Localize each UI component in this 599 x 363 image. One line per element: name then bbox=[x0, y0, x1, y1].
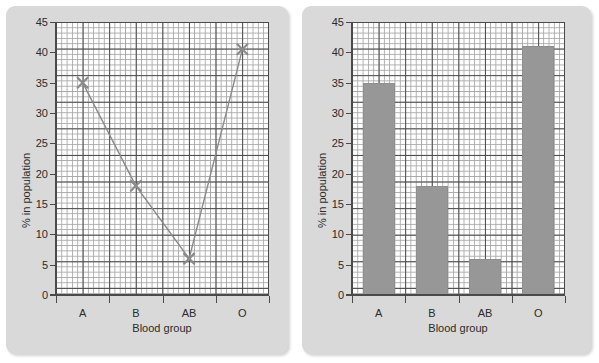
bar-ab bbox=[469, 259, 501, 295]
y-tick bbox=[346, 265, 352, 266]
y-tick-label: 45 bbox=[22, 16, 48, 28]
bar-chart-plot-area bbox=[352, 22, 565, 295]
data-point-marker-ab bbox=[184, 254, 194, 264]
y-tick-label: 35 bbox=[22, 77, 48, 89]
x-tick bbox=[512, 296, 513, 303]
y-tick-label: 5 bbox=[318, 259, 344, 271]
y-tick bbox=[346, 83, 352, 84]
y-tick-label: 10 bbox=[22, 228, 48, 240]
x-tick-label: O bbox=[534, 307, 543, 319]
x-tick-label: AB bbox=[478, 307, 493, 319]
figure-root: 051015202530354045 ABABO Blood group % i… bbox=[0, 0, 599, 363]
y-tick-label: 5 bbox=[22, 259, 48, 271]
y-tick bbox=[50, 22, 56, 23]
y-tick bbox=[50, 113, 56, 114]
line-chart-y-axis bbox=[55, 22, 57, 296]
bar-chart-x-axis-title: Blood group bbox=[428, 322, 487, 334]
x-tick-label: O bbox=[238, 307, 247, 319]
y-tick-label: 30 bbox=[22, 107, 48, 119]
x-tick-label: A bbox=[79, 307, 86, 319]
y-tick bbox=[346, 174, 352, 175]
y-tick-label: 25 bbox=[22, 137, 48, 149]
data-point-marker-b bbox=[131, 181, 141, 191]
x-tick-label: B bbox=[428, 307, 435, 319]
line-chart-panel: 051015202530354045 ABABO Blood group % i… bbox=[6, 6, 288, 354]
y-tick-label: 0 bbox=[318, 289, 344, 301]
y-tick bbox=[50, 265, 56, 266]
x-tick bbox=[459, 296, 460, 303]
y-tick-label: 30 bbox=[318, 107, 344, 119]
x-tick bbox=[109, 296, 110, 303]
x-tick-label: A bbox=[375, 307, 382, 319]
y-tick bbox=[346, 22, 352, 23]
bar-a bbox=[363, 83, 395, 295]
y-tick-label: 0 bbox=[22, 289, 48, 301]
y-tick bbox=[346, 113, 352, 114]
data-point-marker-o bbox=[237, 44, 247, 54]
y-tick-label: 40 bbox=[22, 46, 48, 58]
data-point-marker-a bbox=[78, 78, 88, 88]
line-chart-x-axis-title: Blood group bbox=[132, 322, 191, 334]
y-tick bbox=[50, 143, 56, 144]
bar-b bbox=[416, 186, 448, 295]
x-tick-label: B bbox=[132, 307, 139, 319]
y-tick bbox=[50, 174, 56, 175]
line-chart-series bbox=[56, 22, 269, 295]
bar-chart-x-axis bbox=[346, 294, 565, 296]
y-tick bbox=[50, 83, 56, 84]
x-tick bbox=[163, 296, 164, 303]
y-tick bbox=[346, 52, 352, 53]
x-tick bbox=[565, 296, 566, 303]
x-tick bbox=[56, 296, 57, 303]
bar-chart-y-axis bbox=[351, 22, 353, 296]
y-tick bbox=[50, 234, 56, 235]
y-tick-label: 35 bbox=[318, 77, 344, 89]
y-tick-label: 25 bbox=[318, 137, 344, 149]
x-tick bbox=[352, 296, 353, 303]
y-tick bbox=[346, 234, 352, 235]
line-chart-x-axis bbox=[50, 294, 269, 296]
line-series-path bbox=[83, 49, 243, 258]
y-tick bbox=[346, 204, 352, 205]
x-tick-label: AB bbox=[182, 307, 197, 319]
line-chart-y-axis-title: % in population bbox=[20, 153, 32, 228]
y-tick bbox=[50, 52, 56, 53]
bar-chart-y-axis-title: % in population bbox=[316, 153, 328, 228]
bar-chart-panel: 051015202530354045 ABABO Blood group % i… bbox=[302, 6, 591, 354]
y-tick-label: 10 bbox=[318, 228, 344, 240]
line-chart-plot-area bbox=[56, 22, 269, 295]
y-tick-label: 40 bbox=[318, 46, 344, 58]
x-tick bbox=[269, 296, 270, 303]
x-tick bbox=[216, 296, 217, 303]
y-tick bbox=[50, 204, 56, 205]
y-tick bbox=[346, 143, 352, 144]
x-tick bbox=[405, 296, 406, 303]
y-tick-label: 45 bbox=[318, 16, 344, 28]
bar-o bbox=[522, 46, 554, 295]
